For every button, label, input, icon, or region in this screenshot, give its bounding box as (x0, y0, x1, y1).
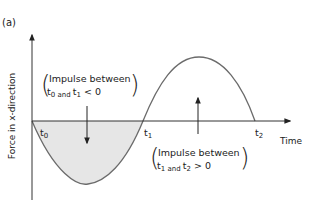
annotation-positive-impulse: ( Impulse between t1 and t2 > 0 ) (150, 144, 249, 173)
svg-text:t1 and t2 > 0: t1 and t2 > 0 (157, 160, 211, 173)
y-axis-title: Force in x-direction (7, 73, 17, 159)
x-axis-title: Time (279, 136, 302, 146)
svg-text:t0 and t1 < 0: t0 and t1 < 0 (47, 86, 101, 99)
force-time-diagram: (a) Force in x-direction Time t0 t1 t2 (… (0, 0, 314, 209)
annotation-negative-impulse: ( Impulse between t0 and t1 < 0 ) (41, 71, 139, 99)
svg-text:Impulse between: Impulse between (49, 73, 131, 84)
tick-t1: t1 (144, 127, 152, 140)
panel-label: (a) (2, 17, 16, 28)
right-paren: ) (240, 144, 249, 172)
svg-text:Impulse between: Impulse between (158, 147, 240, 158)
right-paren: ) (130, 71, 139, 99)
tick-t2: t2 (255, 127, 263, 140)
